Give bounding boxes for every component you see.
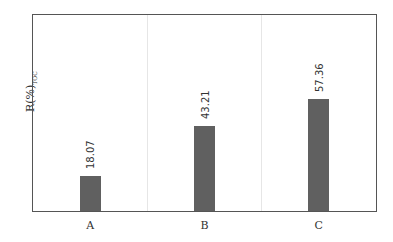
bar-B [194,126,215,211]
bar-C [308,99,329,211]
x-tick-label-C: C [304,219,334,232]
value-label-C: 57.36 [314,63,325,92]
gridline [147,15,148,211]
bar-A [80,176,101,211]
value-label-B: 43.21 [200,91,211,120]
value-label-A: 18.07 [85,140,96,169]
x-tick-label-B: B [190,219,220,232]
x-tick-label-A: A [75,219,105,232]
gridline [261,15,262,211]
